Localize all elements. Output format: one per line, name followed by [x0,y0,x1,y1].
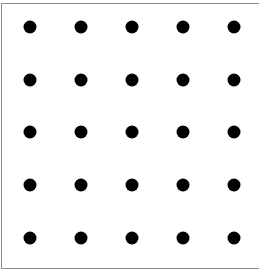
grid-dot [228,21,241,34]
grid-dot [177,74,190,87]
grid-dot [24,232,37,245]
grid-dot [177,232,190,245]
grid-dot [75,179,88,192]
grid-dot [228,74,241,87]
grid-dot [228,179,241,192]
grid-dot [177,21,190,34]
grid-dot [24,179,37,192]
grid-dot [24,21,37,34]
grid-dot [75,21,88,34]
grid-dot [75,126,88,139]
grid-dot [126,179,139,192]
grid-dot [75,232,88,245]
grid-dot [177,126,190,139]
grid-dot [177,179,190,192]
grid-dot [126,232,139,245]
grid-dot [126,74,139,87]
grid-dot [228,232,241,245]
grid-dot [24,74,37,87]
grid-dot [126,126,139,139]
grid-dot [126,21,139,34]
grid-dot [24,126,37,139]
grid-dot [228,126,241,139]
grid-dot [75,74,88,87]
